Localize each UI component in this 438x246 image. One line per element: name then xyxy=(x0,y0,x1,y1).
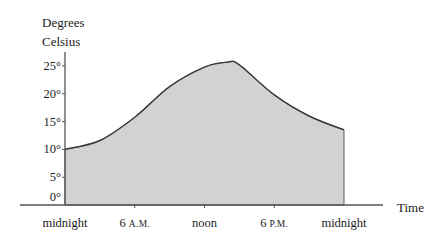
y-tick-label: 5° xyxy=(50,170,61,184)
x-tick-label: midnight xyxy=(42,216,88,230)
x-axis-label: Time xyxy=(397,200,424,215)
title-line-1: Degrees xyxy=(42,15,85,30)
x-tick-label: midnight xyxy=(321,216,367,230)
y-ticks: 0°5°10°15°20°25° xyxy=(44,59,66,204)
x-tick-label: noon xyxy=(192,216,218,230)
chart-title: Degrees Celsius xyxy=(42,15,85,49)
x-tick-label: 6 A.M. xyxy=(119,216,150,230)
temperature-area xyxy=(65,61,344,205)
y-tick-label: 25° xyxy=(44,59,62,73)
x-tick-label: 6 P.M. xyxy=(260,216,288,230)
y-tick-label: 0° xyxy=(50,190,61,204)
y-tick-label: 15° xyxy=(44,115,62,129)
y-tick-label: 10° xyxy=(44,142,62,156)
temperature-chart: Degrees Celsius 0°5°10°15°20°25° midnigh… xyxy=(0,0,438,246)
title-line-2: Celsius xyxy=(42,34,80,49)
x-ticks: midnight6 A.M.noon6 P.M.midnight xyxy=(42,205,367,230)
y-tick-label: 20° xyxy=(44,87,62,101)
